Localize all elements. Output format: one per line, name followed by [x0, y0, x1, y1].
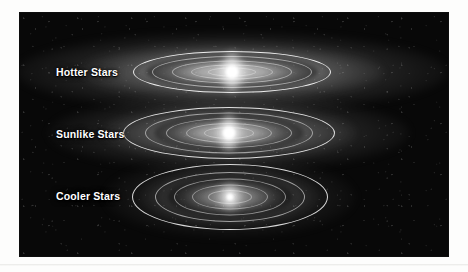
disk-haze-layer: [143, 168, 318, 226]
orbital-ring: [192, 185, 268, 210]
system-label-sunlike-stars: Sunlike Stars: [56, 128, 124, 140]
disk-haze-layer: [105, 157, 355, 237]
dust-belt: [168, 176, 292, 218]
orbital-ring: [174, 179, 286, 216]
star-systems-figure: Hotter StarsSunlike StarsCooler Stars: [20, 13, 448, 256]
system-label-hotter-stars: Hotter Stars: [56, 66, 118, 78]
orbital-ring: [155, 172, 305, 222]
disk-haze-layer: [175, 177, 285, 217]
page-canvas: Hotter StarsSunlike StarsCooler Stars: [0, 0, 468, 272]
star-core: [227, 194, 234, 201]
system-label-cooler-stars: Cooler Stars: [56, 190, 120, 202]
orbital-ring: [132, 164, 328, 230]
orbital-ring: [208, 190, 252, 204]
page-divider-rule: [0, 264, 468, 266]
star-glow: [215, 182, 245, 212]
star-vertical-plume: [226, 186, 235, 208]
